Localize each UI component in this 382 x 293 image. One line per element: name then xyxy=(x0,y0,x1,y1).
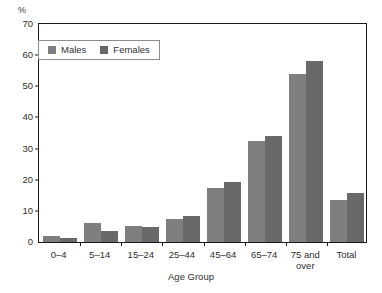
bar-males xyxy=(84,223,101,242)
x-axis-tick-label: 25–44 xyxy=(161,249,202,260)
bar-females xyxy=(224,182,241,242)
legend-label-females: Females xyxy=(113,45,149,55)
bar-males xyxy=(166,219,183,242)
bar-chart-figure: % 010203040506070 0–45–1415–2425–4445–64… xyxy=(0,0,382,293)
bar-males xyxy=(207,188,224,243)
bar-females xyxy=(101,231,118,242)
bar-males xyxy=(125,226,142,242)
x-axis-tick-label: 15–24 xyxy=(120,249,161,260)
x-axis-tick-label: 5–14 xyxy=(79,249,120,260)
bar-males xyxy=(248,141,265,242)
y-axis-tick-label: 0 xyxy=(28,237,39,247)
legend-item-males: Males xyxy=(48,45,86,55)
x-axis-tickmark xyxy=(327,242,328,246)
bar-group xyxy=(327,24,368,242)
chart-legend: Males Females xyxy=(38,40,160,60)
bar-females xyxy=(347,193,364,242)
x-axis-tick-label: Total xyxy=(326,249,367,260)
legend-item-females: Females xyxy=(100,45,149,55)
x-axis-tick-label: 45–64 xyxy=(203,249,244,260)
x-axis-tick-label: 0–4 xyxy=(38,249,79,260)
y-axis-tick-label: 70 xyxy=(22,19,39,29)
bar-males xyxy=(330,200,347,242)
x-axis-tick-label: 75 and over xyxy=(285,249,326,271)
bar-group xyxy=(162,24,203,242)
bar-males xyxy=(289,74,306,242)
x-axis-tickmark xyxy=(121,242,122,246)
x-axis-tick-label: 65–74 xyxy=(244,249,285,260)
bar-females xyxy=(306,61,323,242)
legend-swatch-females-icon xyxy=(100,46,108,54)
bar-females xyxy=(142,227,159,242)
bar-females xyxy=(265,136,282,242)
x-axis-title: Age Group xyxy=(0,272,382,282)
bar-females xyxy=(60,238,77,242)
x-axis-tickmark xyxy=(162,242,163,246)
x-axis-tickmark xyxy=(286,242,287,246)
legend-swatch-males-icon xyxy=(48,46,56,54)
x-axis-tickmark xyxy=(204,242,205,246)
bar-females xyxy=(183,216,200,242)
bar-group xyxy=(245,24,286,242)
bar-group xyxy=(204,24,245,242)
x-axis-tickmark xyxy=(80,242,81,246)
bar-males xyxy=(43,236,60,242)
bar-group xyxy=(286,24,327,242)
x-axis-tickmark xyxy=(245,242,246,246)
y-axis-unit-label: % xyxy=(18,6,26,15)
legend-label-males: Males xyxy=(61,45,86,55)
